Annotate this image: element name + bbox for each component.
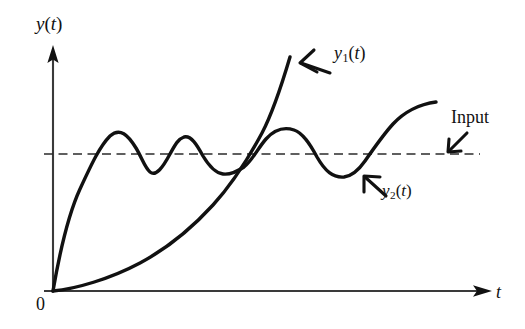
y-axis-label: y(t) [36,14,62,33]
y2-label-close-paren: ) [406,181,412,200]
y1-label-var: y [334,43,342,63]
y1-label-close-paren: ) [359,43,365,63]
x-axis [44,285,492,297]
y-axis-label-close-paren: ) [56,13,62,34]
curve-label-y1: y1(t) [334,44,365,65]
plot-canvas [0,0,525,329]
input-pointer-arrow-icon [448,133,467,152]
step-response-figure: y(t) y1(t) y2(t) Input 0 t [0,0,525,329]
input-label: Input [451,108,489,126]
x-axis-label: t [496,283,501,301]
y2-label-var: y [382,181,390,200]
origin-label: 0 [36,295,45,313]
curve-y2 [53,102,436,291]
y1-pointer-arrow-icon [300,50,330,73]
curve-label-y2: y2(t) [382,182,412,201]
y-axis [47,45,58,291]
